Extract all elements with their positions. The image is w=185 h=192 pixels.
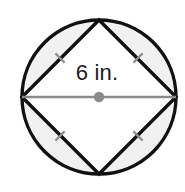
geometry-canvas: 6 in. bbox=[0, 0, 185, 192]
measurement-label: 6 in. bbox=[76, 60, 119, 85]
geometry-figure: 6 in. bbox=[0, 0, 185, 192]
center-point bbox=[94, 92, 104, 102]
